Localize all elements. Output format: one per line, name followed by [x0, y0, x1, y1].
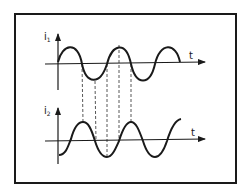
i2-waveform: [59, 119, 181, 157]
top-plot: i1 t: [44, 31, 205, 90]
bottom-t-label: t: [191, 127, 195, 138]
bottom-plot: i2 t: [44, 105, 205, 164]
top-x-axis: [45, 62, 205, 64]
top-t-label: t: [189, 50, 193, 61]
bottom-x-axis: [45, 139, 205, 141]
i1-label: i1: [44, 31, 51, 43]
waveform-diagram: i1 t i2 t: [0, 0, 247, 192]
i2-label: i2: [44, 105, 51, 117]
